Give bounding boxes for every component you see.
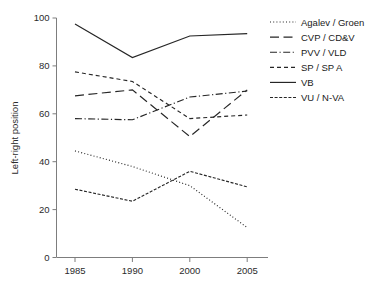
- y-tick-label: 0: [44, 252, 49, 263]
- chart-legend: Agalev / GroenCVP / CD&VPVV / VLDSP / SP…: [270, 17, 364, 104]
- series-line-agalev-groen: [75, 151, 247, 228]
- series-line-sp-sp-a: [75, 72, 247, 119]
- y-axis-title: Left-right position: [9, 102, 20, 175]
- x-axis-tick-labels: 1985199020002005: [64, 265, 257, 276]
- y-axis-tick-labels: 020406080100: [34, 12, 50, 263]
- x-tick-label: 1985: [64, 265, 85, 276]
- legend-label-vu-n-va: VU / N-VA: [301, 92, 345, 103]
- line-chart: 020406080100 Left-right position 1985199…: [0, 0, 378, 290]
- y-tick-label: 20: [39, 204, 50, 215]
- y-tick-label: 40: [39, 156, 50, 167]
- series-line-pvv-vld: [75, 91, 247, 120]
- legend-item-vu-n-va[interactable]: VU / N-VA: [270, 92, 345, 103]
- y-tick-label: 100: [34, 12, 50, 23]
- data-series-group: [75, 24, 247, 228]
- x-axis-group: 1985199020002005: [57, 258, 269, 276]
- legend-item-pvv-vld[interactable]: PVV / VLD: [270, 47, 347, 58]
- legend-label-sp-sp-a: SP / SP A: [301, 62, 343, 73]
- legend-label-cvp-cd-v: CVP / CD&V: [301, 32, 355, 43]
- x-tick-label: 2000: [179, 265, 200, 276]
- y-axis-ticks: [53, 18, 57, 258]
- y-tick-label: 60: [39, 108, 50, 119]
- legend-item-cvp-cd-v[interactable]: CVP / CD&V: [270, 32, 355, 43]
- legend-item-agalev-groen[interactable]: Agalev / Groen: [270, 17, 364, 28]
- series-line-vb: [75, 24, 247, 58]
- legend-label-vb: VB: [301, 77, 314, 88]
- series-line-cvp-cd-v: [75, 90, 247, 137]
- y-axis-group: 020406080100 Left-right position: [9, 12, 57, 263]
- legend-label-pvv-vld: PVV / VLD: [301, 47, 347, 58]
- x-tick-label: 2005: [237, 265, 258, 276]
- legend-label-agalev-groen: Agalev / Groen: [301, 17, 364, 28]
- y-tick-label: 80: [39, 60, 50, 71]
- x-axis-ticks: [75, 258, 247, 263]
- legend-item-sp-sp-a[interactable]: SP / SP A: [270, 62, 343, 73]
- legend-item-vb[interactable]: VB: [270, 77, 314, 88]
- chart-container: 020406080100 Left-right position 1985199…: [0, 0, 378, 290]
- x-tick-label: 1990: [122, 265, 143, 276]
